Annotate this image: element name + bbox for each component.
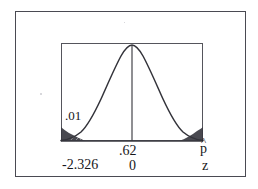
z-axis-label: z (202, 159, 208, 173)
circumflex-icon: ^ (201, 136, 206, 147)
phat-symbol: ^ p (200, 142, 207, 156)
scan-speckle (40, 93, 42, 95)
z-center-value-label: 0 (129, 159, 136, 173)
phat-center-value-label: .62 (119, 144, 137, 158)
normal-curve-plot (61, 43, 203, 142)
z-critical-value-label: -2.326 (62, 158, 98, 172)
statistics-figure: .01 .62 0 -2.326 ^ p z (0, 0, 258, 189)
phat-axis-label: ^ p (200, 142, 207, 156)
scan-speckle (124, 22, 125, 23)
right-tail-shaded-region (179, 127, 203, 141)
alpha-area-label: .01 (65, 109, 81, 122)
